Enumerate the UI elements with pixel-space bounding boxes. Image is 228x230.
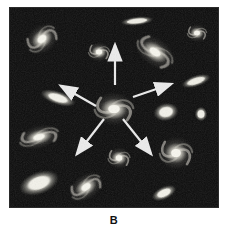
figure-label: B: [0, 214, 228, 226]
film-grain-texture: [10, 8, 218, 207]
galaxy-field: [10, 8, 218, 207]
expanding-universe-figure: B: [0, 0, 228, 230]
diagram-frame: [10, 8, 218, 207]
